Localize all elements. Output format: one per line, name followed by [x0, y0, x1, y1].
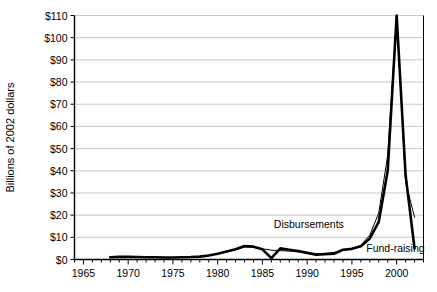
chart-container: $0$10$20$30$40$50$60$70$80$90$100$110196…: [0, 0, 437, 292]
y-tick-label-80: $80: [50, 76, 68, 88]
series-label-fund-raising: Fund-raising: [366, 242, 425, 254]
x-tick-label-1995: 1995: [340, 267, 364, 279]
x-tick-label-2000: 2000: [385, 267, 409, 279]
y-tick-label-40: $40: [50, 165, 68, 177]
y-tick-label-100: $100: [44, 32, 68, 44]
x-tick-label-1975: 1975: [161, 267, 185, 279]
x-tick-label-1985: 1985: [251, 267, 275, 279]
y-tick-label-20: $20: [50, 209, 68, 221]
y-tick-label-50: $50: [50, 143, 68, 155]
x-tick-label-1980: 1980: [206, 267, 230, 279]
y-tick-label-0: $0: [56, 254, 68, 266]
y-tick-label-90: $90: [50, 54, 68, 66]
y-axis-title: Billions of 2002 dollars: [4, 82, 16, 193]
x-tick-label-1990: 1990: [295, 267, 319, 279]
y-tick-label-60: $60: [50, 120, 68, 132]
line-chart: $0$10$20$30$40$50$60$70$80$90$100$110196…: [0, 0, 437, 292]
y-tick-label-30: $30: [50, 187, 68, 199]
x-tick-label-1970: 1970: [117, 267, 141, 279]
x-tick-label-1965: 1965: [72, 267, 96, 279]
y-tick-label-10: $10: [50, 231, 68, 243]
y-tick-label-70: $70: [50, 98, 68, 110]
y-tick-label-110: $110: [45, 10, 68, 22]
series-label-disbursements: Disbursements: [274, 218, 344, 230]
plot-background: [75, 16, 424, 260]
